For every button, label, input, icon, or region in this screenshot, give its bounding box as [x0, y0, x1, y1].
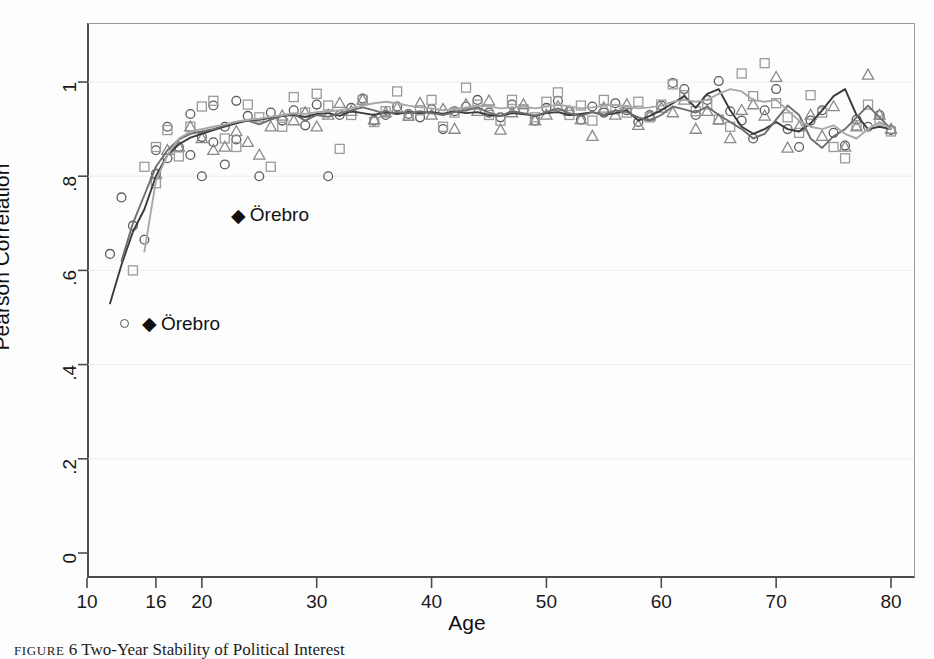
y-axis-label: Pearson Correlation	[0, 87, 14, 427]
x-tick-label: 30	[277, 591, 357, 613]
plot-frame	[87, 23, 915, 578]
x-tick-label: 70	[736, 591, 816, 613]
x-tick-label: 60	[621, 591, 701, 613]
caption-number: 6	[69, 640, 78, 659]
caption-prefix: FIGURE	[14, 643, 65, 658]
x-tick-label: 50	[506, 591, 586, 613]
annotation-label: Örebro	[250, 204, 309, 226]
figure-container: 0.2.4.6.81 101620304050607080 Pearson Co…	[0, 0, 934, 659]
annotation-orebro-upper: ◆ Örebro	[231, 204, 309, 226]
x-tick-label: 40	[392, 591, 472, 613]
circle-icon	[120, 319, 129, 328]
annotation-label: Örebro	[161, 313, 220, 335]
annotation-orebro-lower: ◆ Örebro	[120, 313, 220, 335]
y-tick-label: .2	[59, 459, 81, 529]
figure-caption: FIGURE 6 Two-Year Stability of Political…	[14, 640, 914, 659]
caption-text: Two-Year Stability of Political Interest	[81, 640, 344, 659]
x-axis-label: Age	[0, 611, 934, 635]
x-tick-label: 20	[162, 591, 242, 613]
y-tick-label: .8	[59, 176, 81, 246]
y-tick-label: 1	[59, 82, 81, 152]
y-tick-label: .4	[59, 365, 81, 435]
y-tick-label: .6	[59, 270, 81, 340]
diamond-icon: ◆	[231, 206, 246, 225]
x-tick-label: 80	[851, 591, 931, 613]
diamond-icon: ◆	[142, 314, 157, 333]
